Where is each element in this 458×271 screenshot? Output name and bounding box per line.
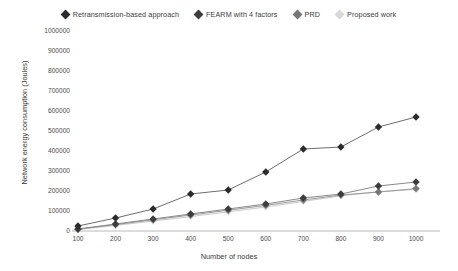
x-axis-tick-label: 500 <box>223 235 234 242</box>
data-point-marker[interactable] <box>112 214 119 221</box>
data-point-marker[interactable] <box>412 185 419 192</box>
x-axis-tick-label: 100 <box>72 235 83 242</box>
y-axis-tick-label: 100000 <box>48 207 70 214</box>
data-point-marker[interactable] <box>375 182 382 189</box>
x-axis-tick-label: 400 <box>185 235 196 242</box>
y-axis-tick-label: 600000 <box>48 107 70 114</box>
data-point-marker[interactable] <box>187 190 194 197</box>
series-line <box>78 182 416 229</box>
x-axis-tick-label: 200 <box>110 235 121 242</box>
x-axis-tick-label: 700 <box>298 235 309 242</box>
x-axis-tick-label: 300 <box>148 235 159 242</box>
y-axis-tick-label: 200000 <box>48 187 70 194</box>
y-axis-tick-label: 400000 <box>48 147 70 154</box>
x-axis-tick-label: 800 <box>335 235 346 242</box>
x-axis-tick-label: 600 <box>260 235 271 242</box>
data-point-marker[interactable] <box>412 113 419 120</box>
data-point-marker[interactable] <box>225 186 232 193</box>
chart-figure: Retransmission-based approachFEARM with … <box>0 0 458 271</box>
data-point-marker[interactable] <box>262 168 269 175</box>
y-axis-tick-label: 900000 <box>48 47 70 54</box>
plot-area: 0100000200000300000400000500000600000700… <box>0 0 458 271</box>
y-axis-tick-label: 1000000 <box>44 27 70 34</box>
y-axis-tick-label: 300000 <box>48 167 70 174</box>
data-point-marker[interactable] <box>375 123 382 130</box>
y-axis-tick-label: 800000 <box>48 67 70 74</box>
data-point-marker[interactable] <box>300 145 307 152</box>
data-point-marker[interactable] <box>412 178 419 185</box>
x-axis-tick-label: 900 <box>373 235 384 242</box>
y-axis-tick-label: 500000 <box>48 127 70 134</box>
data-point-marker[interactable] <box>149 205 156 212</box>
series-line <box>78 189 416 229</box>
line-chart-svg: 0100000200000300000400000500000600000700… <box>0 0 458 271</box>
y-axis-tick-label: 700000 <box>48 87 70 94</box>
data-point-marker[interactable] <box>337 143 344 150</box>
y-axis-tick-label: 0 <box>66 227 70 234</box>
x-axis-tick-label: 1000 <box>409 235 424 242</box>
